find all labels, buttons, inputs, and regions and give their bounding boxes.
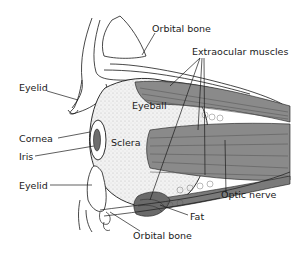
label-eyeball: Eyeball [132,101,167,111]
eye-anatomy-diagram [0,0,297,255]
label-eyelid-upper: Eyelid [19,83,48,93]
label-extraocular-muscles: Extraocular muscles [192,47,288,57]
label-cornea: Cornea [19,134,53,144]
label-iris: Iris [19,152,33,162]
label-orbital-bone-top: Orbital bone [152,24,211,34]
lower-eyelid-shape [79,166,107,232]
label-orbital-bone-bottom: Orbital bone [133,231,192,241]
label-fat: Fat [190,212,204,222]
label-eyelid-lower: Eyelid [19,181,48,191]
label-sclera: Sclera [111,138,140,148]
cornea-iris-shape [90,120,106,160]
label-optic-nerve: Optic nerve [221,190,276,200]
